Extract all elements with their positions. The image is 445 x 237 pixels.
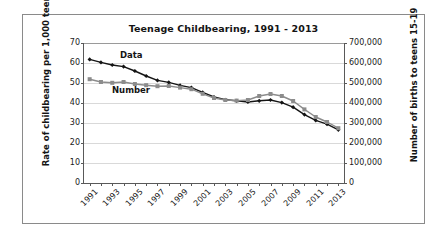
y-tick-mark-right bbox=[344, 43, 347, 44]
data-point-marker bbox=[122, 80, 126, 84]
data-point-marker bbox=[257, 94, 261, 98]
x-tick-mark bbox=[180, 183, 181, 186]
y-tick-mark-right bbox=[344, 83, 347, 84]
data-point-marker bbox=[201, 92, 205, 96]
x-tick-mark bbox=[237, 183, 238, 186]
y-tick-label-right: 300,000 bbox=[349, 119, 382, 127]
series-label-number: Number bbox=[112, 86, 150, 95]
x-tick-mark bbox=[191, 183, 192, 186]
data-point-marker bbox=[144, 74, 148, 78]
x-tick-mark bbox=[282, 183, 283, 186]
x-tick-label: 2007 bbox=[260, 188, 280, 208]
data-point-marker bbox=[99, 80, 103, 84]
x-tick-mark bbox=[214, 183, 215, 186]
x-tick-mark bbox=[271, 183, 272, 186]
x-tick-mark bbox=[327, 183, 328, 186]
x-tick-label: 2011 bbox=[305, 188, 325, 208]
y-tick-label-right: 500,000 bbox=[349, 79, 382, 87]
x-tick-label: 2003 bbox=[215, 188, 235, 208]
x-tick-mark bbox=[338, 183, 339, 186]
x-tick-label: 1995 bbox=[124, 188, 144, 208]
y-tick-label-right: 0 bbox=[349, 179, 354, 187]
data-point-marker bbox=[280, 94, 284, 98]
y-tick-label-left: 70 bbox=[70, 39, 80, 47]
y-tick-label-left: 0 bbox=[75, 179, 80, 187]
data-point-marker bbox=[280, 101, 284, 105]
data-point-marker bbox=[189, 87, 193, 91]
x-tick-mark bbox=[259, 183, 260, 186]
y-tick-label-left: 50 bbox=[70, 79, 80, 87]
data-point-marker bbox=[121, 65, 125, 69]
y-tick-mark-left bbox=[81, 183, 84, 184]
y-tick-label-left: 20 bbox=[70, 139, 80, 147]
x-tick-mark bbox=[157, 183, 158, 186]
y-tick-mark-right bbox=[344, 103, 347, 104]
x-tick-label: 1991 bbox=[79, 188, 99, 208]
y-tick-label-left: 40 bbox=[70, 99, 80, 107]
y-tick-mark-right bbox=[344, 123, 347, 124]
data-point-marker bbox=[155, 78, 159, 82]
chart-title: Teenage Childbearing, 1991 - 2013 bbox=[23, 23, 424, 34]
x-tick-label: 2001 bbox=[192, 188, 212, 208]
y-tick-mark-right bbox=[344, 183, 347, 184]
x-tick-mark bbox=[124, 183, 125, 186]
x-tick-label: 2005 bbox=[238, 188, 258, 208]
data-point-marker bbox=[291, 99, 295, 103]
y-axis-left-title: Rate of childbearing per 1,000 teens 15-… bbox=[41, 26, 52, 166]
x-tick-mark bbox=[146, 183, 147, 186]
x-tick-mark bbox=[316, 183, 317, 186]
data-point-marker bbox=[212, 96, 216, 100]
y-tick-mark-right bbox=[344, 163, 347, 164]
x-tick-mark bbox=[112, 183, 113, 186]
data-point-marker bbox=[302, 107, 306, 111]
x-tick-mark bbox=[293, 183, 294, 186]
data-point-marker bbox=[325, 120, 329, 124]
y-axis-right-title: Number of births to teens 15-19 bbox=[409, 22, 420, 162]
y-tick-mark-right bbox=[344, 63, 347, 64]
x-tick-mark bbox=[304, 183, 305, 186]
data-point-marker bbox=[223, 98, 227, 102]
data-point-marker bbox=[268, 98, 272, 102]
data-point-marker bbox=[110, 63, 114, 67]
data-point-marker bbox=[167, 84, 171, 88]
x-tick-mark bbox=[169, 183, 170, 186]
x-tick-label: 1997 bbox=[147, 188, 167, 208]
series-plot bbox=[84, 43, 344, 183]
x-tick-mark bbox=[203, 183, 204, 186]
x-tick-mark bbox=[248, 183, 249, 186]
y-tick-label-right: 200,000 bbox=[349, 139, 382, 147]
data-point-marker bbox=[99, 60, 103, 64]
data-point-marker bbox=[133, 69, 137, 73]
x-tick-label: 1999 bbox=[170, 188, 190, 208]
data-point-marker bbox=[235, 99, 239, 103]
series-label-data: Data bbox=[120, 51, 143, 60]
y-tick-label-right: 700,000 bbox=[349, 39, 382, 47]
data-point-marker bbox=[246, 98, 250, 102]
y-tick-label-left: 60 bbox=[70, 59, 80, 67]
data-point-marker bbox=[336, 126, 340, 130]
x-tick-label: 2013 bbox=[328, 188, 348, 208]
data-point-marker bbox=[257, 99, 261, 103]
y-tick-label-left: 30 bbox=[70, 119, 80, 127]
y-tick-label-left: 10 bbox=[70, 159, 80, 167]
x-tick-mark bbox=[225, 183, 226, 186]
data-point-marker bbox=[167, 80, 171, 84]
y-tick-label-right: 400,000 bbox=[349, 99, 382, 107]
x-tick-mark bbox=[135, 183, 136, 186]
data-point-marker bbox=[314, 115, 318, 119]
chart-figure: Teenage Childbearing, 1991 - 2013 Rate o… bbox=[22, 14, 425, 224]
data-point-marker bbox=[178, 86, 182, 90]
x-tick-mark bbox=[101, 183, 102, 186]
data-point-marker bbox=[155, 84, 159, 88]
y-tick-mark-right bbox=[344, 143, 347, 144]
x-tick-label: 2009 bbox=[283, 188, 303, 208]
y-tick-label-right: 100,000 bbox=[349, 159, 382, 167]
y-tick-label-right: 600,000 bbox=[349, 59, 382, 67]
data-point-marker bbox=[88, 57, 92, 61]
x-tick-mark bbox=[90, 183, 91, 186]
plot-area: 010203040506070 0100,000200,000300,00040… bbox=[83, 43, 345, 184]
data-point-marker bbox=[269, 92, 273, 96]
x-tick-label: 1993 bbox=[102, 188, 122, 208]
data-point-marker bbox=[88, 77, 92, 81]
